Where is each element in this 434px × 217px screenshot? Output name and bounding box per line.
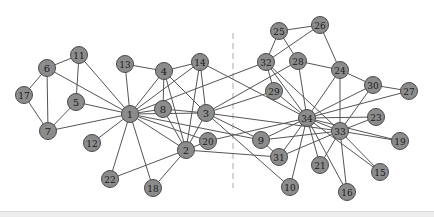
node-label: 5 — [73, 97, 79, 108]
node-31: 31 — [271, 149, 288, 166]
node-label: 1 — [127, 109, 133, 120]
edge-6-7 — [47, 68, 48, 131]
node-label: 12 — [86, 139, 97, 149]
node-label: 19 — [394, 137, 406, 147]
node-label: 22 — [104, 175, 115, 185]
node-27: 27 — [401, 83, 418, 100]
node-label: 7 — [45, 126, 51, 137]
edge-1-6 — [47, 68, 130, 114]
graph-canvas: 1234567891011121314151617181920212223242… — [0, 0, 434, 217]
edge-16-33 — [340, 131, 347, 192]
node-19: 19 — [392, 133, 409, 150]
node-label: 13 — [119, 60, 131, 70]
node-label: 25 — [273, 27, 285, 37]
edge-19-34 — [307, 118, 400, 141]
node-label: 9 — [258, 135, 264, 146]
node-21: 21 — [312, 157, 329, 174]
node-15: 15 — [372, 164, 389, 181]
node-label: 6 — [44, 63, 50, 74]
node-8: 8 — [155, 101, 172, 118]
edge-1-18 — [130, 114, 153, 188]
edge-9-33 — [261, 131, 340, 140]
node-label: 18 — [147, 184, 159, 194]
node-label: 23 — [370, 113, 382, 123]
node-29: 29 — [266, 83, 283, 100]
node-label: 33 — [334, 127, 346, 137]
node-label: 17 — [18, 91, 30, 101]
node-25: 25 — [271, 23, 288, 40]
node-5: 5 — [68, 94, 85, 111]
node-4: 4 — [156, 63, 173, 80]
node-3: 3 — [198, 105, 215, 122]
node-label: 29 — [268, 87, 280, 97]
node-label: 24 — [334, 66, 346, 76]
node-33: 33 — [332, 123, 349, 140]
edge-19-33 — [340, 131, 400, 141]
node-22: 22 — [102, 171, 119, 188]
node-34: 34 — [299, 110, 316, 127]
node-layer: 1234567891011121314151617181920212223242… — [16, 17, 418, 201]
bottom-border — [0, 211, 434, 217]
node-23: 23 — [368, 109, 385, 126]
node-24: 24 — [332, 62, 349, 79]
node-label: 2 — [183, 145, 189, 156]
node-label: 30 — [367, 81, 379, 91]
node-label: 15 — [374, 168, 386, 178]
node-label: 4 — [161, 66, 167, 77]
node-label: 10 — [284, 183, 296, 193]
node-14: 14 — [192, 54, 209, 71]
node-label: 26 — [314, 21, 326, 31]
node-12: 12 — [84, 135, 101, 152]
network-diagram: 1234567891011121314151617181920212223242… — [0, 0, 434, 217]
edge-10-34 — [290, 118, 307, 187]
node-label: 14 — [194, 58, 206, 68]
node-label: 34 — [301, 114, 313, 124]
node-20: 20 — [200, 133, 217, 150]
node-label: 27 — [403, 87, 415, 97]
node-label: 21 — [314, 161, 325, 171]
node-label: 28 — [292, 57, 304, 67]
node-9: 9 — [253, 132, 270, 149]
node-28: 28 — [290, 53, 307, 70]
edge-1-7 — [48, 114, 130, 131]
node-label: 8 — [160, 104, 166, 115]
node-13: 13 — [117, 56, 134, 73]
node-label: 20 — [202, 137, 214, 147]
node-11: 11 — [71, 47, 88, 64]
edge-3-33 — [206, 113, 340, 131]
node-1: 1 — [122, 106, 139, 123]
node-16: 16 — [339, 184, 356, 201]
node-7: 7 — [40, 123, 57, 140]
node-label: 11 — [73, 51, 84, 61]
node-label: 16 — [341, 188, 353, 198]
node-2: 2 — [178, 142, 195, 159]
node-18: 18 — [145, 180, 162, 197]
node-6: 6 — [39, 60, 56, 77]
node-label: 32 — [260, 58, 271, 68]
edge-23-34 — [307, 117, 376, 118]
node-32: 32 — [258, 54, 275, 71]
edge-2-22 — [110, 150, 186, 179]
node-26: 26 — [312, 17, 329, 34]
node-10: 10 — [282, 179, 299, 196]
edge-1-22 — [110, 114, 130, 179]
node-label: 31 — [273, 153, 284, 163]
node-30: 30 — [365, 77, 382, 94]
node-label: 3 — [203, 108, 209, 119]
node-17: 17 — [16, 87, 33, 104]
